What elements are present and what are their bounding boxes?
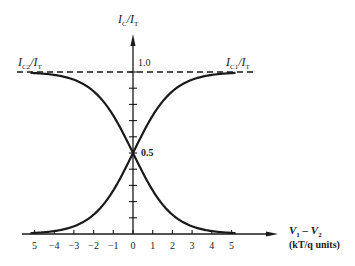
x-tick-label: 2 xyxy=(170,240,175,251)
x-tick-label: 1 xyxy=(150,240,155,251)
x-tick-label: −4 xyxy=(49,240,60,251)
y-tick-label-0-5: 0.5 xyxy=(141,147,154,158)
x-tick-label: −1 xyxy=(108,240,119,251)
curve-label-ic2: IC2/IT xyxy=(18,55,42,71)
x-tick-label: 5 xyxy=(32,240,37,251)
x-tick-label: 3 xyxy=(190,240,195,251)
x-tick-label: 4 xyxy=(209,240,214,251)
x-tick-label: −2 xyxy=(88,240,99,251)
x-axis-title-line2: (kT/q units) xyxy=(289,239,340,250)
x-axis-arrow-icon xyxy=(266,232,278,237)
x-tick-label: −3 xyxy=(69,240,80,251)
curve-label-ic1: IC1/IT xyxy=(226,55,250,71)
x-tick-label: 5 xyxy=(229,240,234,251)
y-tick-label-1-0: 1.0 xyxy=(138,57,151,68)
y-axis-title: IC/IT xyxy=(118,12,138,28)
x-tick-label: 0 xyxy=(131,240,136,251)
y-axis-arrow-icon xyxy=(131,34,136,46)
x-axis-title-line1: V1 – V2 xyxy=(289,224,322,239)
